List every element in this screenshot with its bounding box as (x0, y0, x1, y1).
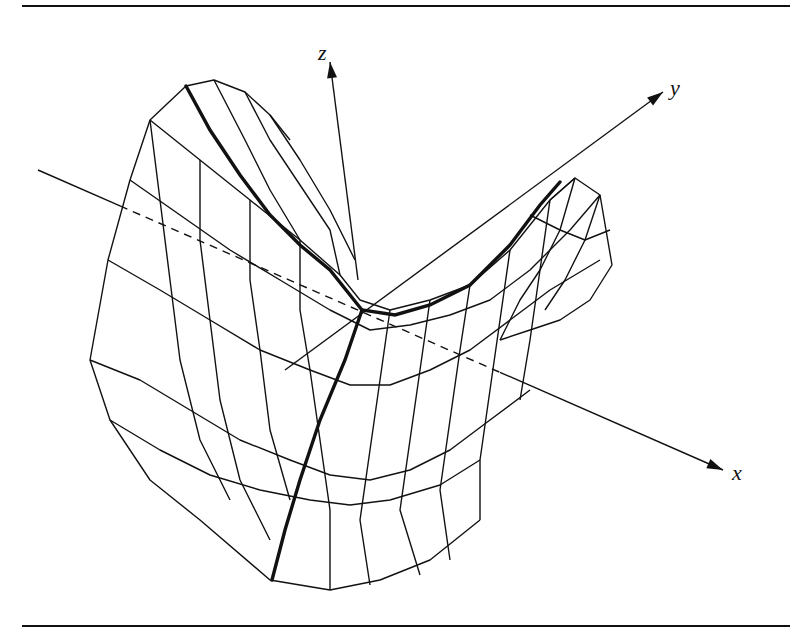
x-axis-line (500, 372, 723, 470)
x-axis-line (38, 170, 120, 206)
y-axis-arrowhead-icon (647, 92, 663, 106)
y-axis-label: y (670, 75, 680, 101)
axes-group (38, 62, 723, 470)
saddle-surface-figure: zyx (0, 0, 790, 636)
x-axis-hidden-segment (120, 206, 500, 372)
x-axis-arrowhead-icon (706, 459, 723, 470)
z-axis-label: z (318, 40, 327, 66)
z-axis-arrowhead-icon (327, 62, 337, 79)
x-axis-label: x (732, 460, 742, 486)
saddle-surface-mesh (90, 80, 612, 590)
